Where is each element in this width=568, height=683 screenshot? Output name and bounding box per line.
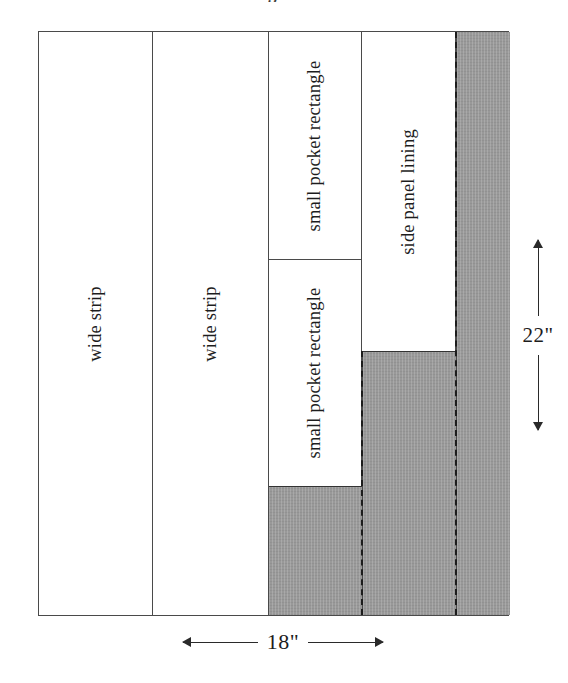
arrow-head-right-icon <box>375 637 384 647</box>
piece-label-wide-strip-1: wide strip <box>85 286 107 361</box>
clipped-title-text: g <box>268 0 308 2</box>
fabric-sheet-outline: wide strip wide strip small pocket recta… <box>38 31 509 616</box>
dimension-height-label: 22" <box>522 323 553 348</box>
fabric-cutting-layout-diagram: g wide strip wide strip small pocket rec… <box>0 0 568 683</box>
dashed-guide-right <box>455 32 457 615</box>
piece-label-small-pocket-rectangle-bottom: small pocket rectangle <box>304 260 326 486</box>
scrap-region-column-4 <box>362 351 456 615</box>
arrow-head-up-icon <box>533 239 543 248</box>
piece-label-side-panel-lining: side panel lining <box>398 129 420 255</box>
dimension-arrow-left <box>183 637 258 647</box>
piece-wide-strip-1: wide strip <box>39 32 153 615</box>
scrap-region-column-5 <box>456 32 510 615</box>
dimension-height-22in: 22" <box>515 240 561 430</box>
scrap-region-column-3 <box>269 486 362 615</box>
arrow-head-left-icon <box>182 637 191 647</box>
piece-small-pocket-rectangle-bottom: small pocket rectangle <box>269 260 362 486</box>
dashed-guide-left <box>361 351 363 615</box>
piece-label-small-pocket-rectangle-top: small pocket rectangle <box>304 32 326 260</box>
dimension-arrow-down <box>533 355 543 431</box>
piece-side-panel-lining: side panel lining <box>362 32 456 351</box>
dimension-arrow-up <box>533 240 543 316</box>
piece-wide-strip-2: wide strip <box>153 32 269 615</box>
dimension-width-label: 18" <box>267 629 299 655</box>
piece-label-wide-strip-2: wide strip <box>200 286 222 361</box>
arrow-head-down-icon <box>533 422 543 431</box>
piece-small-pocket-rectangle-top: small pocket rectangle <box>269 32 362 260</box>
dimension-arrow-right <box>308 637 383 647</box>
dimension-width-18in: 18" <box>183 628 383 656</box>
